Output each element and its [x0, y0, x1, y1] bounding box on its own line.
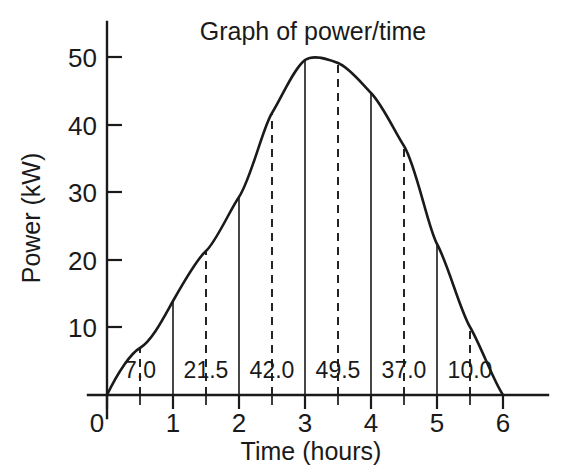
- mid-ordinate-value: 10.0: [448, 357, 493, 383]
- chart-canvas: 50 40 30 20 10 0 1 2 3 4 5 6 7.0 21.5 42…: [0, 0, 571, 473]
- y-axis-tick-labels: 50 40 30 20 10: [68, 43, 97, 343]
- x-tick-label: 5: [430, 408, 444, 438]
- y-tick-label: 30: [68, 178, 97, 208]
- strip-boundary-ordinates: [173, 60, 437, 395]
- x-tick-label: 2: [232, 408, 246, 438]
- mid-ordinate-value: 21.5: [184, 357, 229, 383]
- chart-title: Graph of power/time: [200, 17, 427, 45]
- y-tick-label: 40: [68, 111, 97, 141]
- x-axis-title: Time (hours): [241, 437, 382, 465]
- x-tick-label: 4: [364, 408, 378, 438]
- y-tick-label: 20: [68, 246, 97, 276]
- x-tick-label: 0: [90, 408, 104, 438]
- y-axis-ticks: [107, 57, 122, 327]
- mid-ordinate-value: 7.0: [124, 357, 156, 383]
- y-tick-label: 50: [68, 43, 97, 73]
- x-tick-label: 1: [166, 408, 180, 438]
- power-time-chart-figure: 50 40 30 20 10 0 1 2 3 4 5 6 7.0 21.5 42…: [0, 0, 571, 473]
- x-axis-tick-labels: 0 1 2 3 4 5 6: [90, 408, 510, 438]
- y-axis-title: Power (kW): [17, 153, 45, 284]
- x-axis-ticks: [107, 395, 503, 409]
- y-tick-label: 10: [68, 313, 97, 343]
- x-tick-label: 6: [496, 408, 510, 438]
- x-tick-label: 3: [298, 408, 312, 438]
- mid-ordinate-value: 37.0: [382, 357, 427, 383]
- mid-ordinate-value: 49.5: [316, 357, 361, 383]
- mid-ordinate-value: 42.0: [250, 357, 295, 383]
